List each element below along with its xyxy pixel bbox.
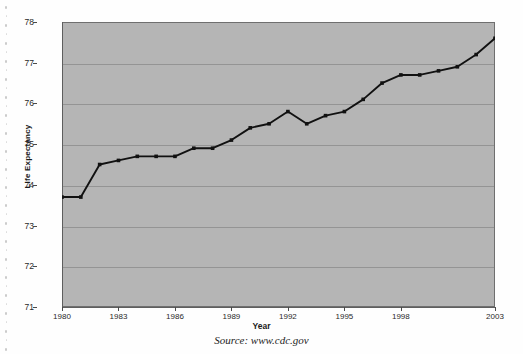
data-point-1992 — [286, 110, 290, 114]
y-tick-mark-77 — [33, 63, 37, 64]
x-tick-mark-2003 — [495, 307, 496, 311]
x-tick-mark-1998 — [401, 307, 402, 311]
x-tick-mark-1995 — [344, 307, 345, 311]
data-point-1990 — [248, 126, 252, 130]
x-tick-mark-1983 — [118, 307, 119, 311]
data-point-1997 — [380, 81, 384, 85]
data-point-1981 — [79, 195, 83, 199]
data-point-1993 — [305, 122, 309, 126]
x-tick-label-1995: 1995 — [324, 312, 364, 321]
x-tick-mark-1980 — [62, 307, 63, 311]
x-tick-label-2003: 2003 — [475, 312, 515, 321]
data-point-1984 — [136, 155, 140, 159]
data-point-2001 — [456, 65, 460, 69]
y-tick-label-77: 77 — [4, 59, 34, 67]
data-point-1986 — [173, 155, 177, 159]
data-point-1989 — [230, 138, 234, 142]
data-point-1988 — [211, 146, 215, 150]
x-axis-title: Year — [0, 321, 523, 331]
y-tick-mark-73 — [33, 226, 37, 227]
data-point-2002 — [474, 53, 478, 57]
data-point-1994 — [324, 114, 328, 118]
x-tick-label-1983: 1983 — [98, 312, 138, 321]
x-tick-label-1989: 1989 — [211, 312, 251, 321]
data-point-1987 — [192, 146, 196, 150]
y-tick-label-73: 73 — [4, 222, 34, 230]
data-point-1996 — [361, 98, 365, 102]
data-point-1999 — [418, 73, 422, 77]
y-tick-mark-78 — [33, 22, 37, 23]
y-axis-title: Life Expectancy — [23, 102, 32, 212]
chart-figure: 7877767574737271 Life Expectancy 1980198… — [0, 0, 523, 354]
data-point-1983 — [117, 159, 121, 163]
x-tick-mark-1992 — [288, 307, 289, 311]
y-tick-label-78: 78 — [4, 18, 34, 26]
data-point-2003 — [493, 36, 495, 40]
y-tick-mark-74 — [33, 185, 37, 186]
data-point-1982 — [98, 163, 102, 167]
data-point-2000 — [437, 69, 441, 73]
x-tick-label-1992: 1992 — [268, 312, 308, 321]
x-tick-label-1980: 1980 — [42, 312, 82, 321]
x-tick-label-1986: 1986 — [155, 312, 195, 321]
scanned-page: 7877767574737271 Life Expectancy 1980198… — [0, 0, 523, 354]
y-tick-mark-75 — [33, 144, 37, 145]
data-point-1995 — [343, 110, 347, 114]
y-tick-label-72: 72 — [4, 262, 34, 270]
data-point-1991 — [267, 122, 271, 126]
data-point-1985 — [154, 155, 158, 159]
data-series-line — [62, 22, 495, 307]
y-tick-mark-72 — [33, 266, 37, 267]
source-caption: Source: www.cdc.gov — [0, 334, 523, 346]
x-tick-mark-1989 — [231, 307, 232, 311]
data-point-1998 — [399, 73, 403, 77]
data-point-1980 — [62, 195, 64, 199]
x-tick-label-1998: 1998 — [381, 312, 421, 321]
series-polyline — [62, 38, 495, 197]
y-tick-mark-76 — [33, 103, 37, 104]
x-tick-mark-1986 — [175, 307, 176, 311]
